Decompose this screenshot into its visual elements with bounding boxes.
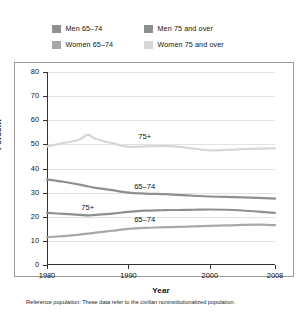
chart-figure: Men 65–74 Men 75 and over Women 65–74 Wo… bbox=[0, 0, 308, 327]
series-line-women-65-74 bbox=[47, 225, 275, 238]
legend-item-men-65-74: Men 65–74 bbox=[52, 24, 144, 34]
x-tick-mark-2008 bbox=[275, 265, 276, 269]
y-tick-label-10: 10 bbox=[17, 237, 39, 244]
series-container bbox=[47, 72, 275, 265]
series-annotation-men-65-74: 65–74 bbox=[134, 183, 155, 191]
series-line-men-65-74 bbox=[47, 179, 275, 198]
x-tick-mark-1990 bbox=[128, 265, 129, 269]
x-tick-label-2000: 2000 bbox=[202, 272, 218, 279]
x-tick-label-1980: 1980 bbox=[39, 272, 55, 279]
legend-swatch-women-75-over bbox=[144, 41, 153, 49]
legend-swatch-women-65-74 bbox=[52, 41, 61, 49]
y-tick-label-40: 40 bbox=[17, 165, 39, 172]
legend-row-2: Women 65–74 Women 75 and over bbox=[52, 40, 257, 50]
x-axis-title: Year bbox=[47, 286, 275, 295]
y-tick-label-70: 70 bbox=[17, 92, 39, 99]
legend-swatch-men-65-74 bbox=[52, 25, 61, 33]
series-line-women-75-and-over bbox=[47, 135, 275, 151]
y-axis-title: Percent bbox=[0, 119, 3, 150]
series-annotation-women-75-and-over: 75+ bbox=[138, 133, 151, 141]
y-tick-label-20: 20 bbox=[17, 213, 39, 220]
series-annotation-men-75-and-over: 75+ bbox=[81, 204, 94, 212]
x-tick-label-1990: 1990 bbox=[120, 272, 136, 279]
legend-swatch-men-75-over bbox=[144, 25, 153, 33]
legend-item-men-75-over: Men 75 and over bbox=[144, 24, 213, 34]
legend-item-women-75-over: Women 75 and over bbox=[144, 40, 224, 50]
legend-label-men-65-74: Men 65–74 bbox=[66, 24, 103, 34]
x-tick-mark-2000 bbox=[210, 265, 211, 269]
y-tick-label-50: 50 bbox=[17, 140, 39, 147]
y-tick-label-60: 60 bbox=[17, 116, 39, 123]
legend-label-women-65-74: Women 65–74 bbox=[66, 40, 114, 50]
y-tick-label-30: 30 bbox=[17, 189, 39, 196]
x-tick-label-2008: 2008 bbox=[267, 272, 283, 279]
x-tick-mark-1980 bbox=[47, 265, 48, 269]
y-tick-label-0: 0 bbox=[17, 261, 39, 268]
legend-label-women-75-over: Women 75 and over bbox=[158, 40, 224, 50]
legend-item-women-65-74: Women 65–74 bbox=[52, 40, 144, 50]
series-annotation-women-65-74: 65–74 bbox=[134, 216, 155, 224]
reference-population-footnote: Reference population: These data refer t… bbox=[26, 299, 288, 306]
legend-label-men-75-over: Men 75 and over bbox=[158, 24, 213, 34]
y-tick-label-80: 80 bbox=[17, 68, 39, 75]
chart-legend: Men 65–74 Men 75 and over Women 65–74 Wo… bbox=[0, 24, 308, 50]
legend-row-1: Men 65–74 Men 75 and over bbox=[52, 24, 257, 34]
